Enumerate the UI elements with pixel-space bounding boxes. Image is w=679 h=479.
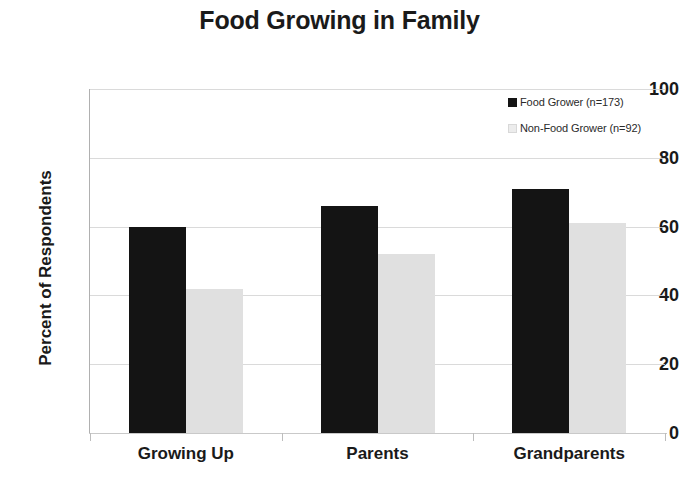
bar xyxy=(512,189,569,433)
x-axis-tick-label: Parents xyxy=(346,444,408,464)
legend-item: Food Grower (n=173) xyxy=(508,96,641,108)
legend-swatch-icon xyxy=(508,124,517,133)
chart-legend: Food Grower (n=173)Non-Food Grower (n=92… xyxy=(508,96,641,148)
x-axis-tick xyxy=(665,433,666,441)
x-axis-tick xyxy=(282,433,283,441)
bar xyxy=(321,206,378,433)
x-axis-tick-label: Growing Up xyxy=(138,444,234,464)
bar xyxy=(569,223,626,433)
x-axis-tick xyxy=(90,433,91,441)
x-axis-line xyxy=(89,433,667,434)
legend-label: Non-Food Grower (n=92) xyxy=(520,122,641,134)
legend-item: Non-Food Grower (n=92) xyxy=(508,122,641,134)
gridline xyxy=(90,89,665,90)
bar xyxy=(186,289,243,433)
bar xyxy=(129,227,186,433)
bar xyxy=(378,254,435,433)
legend-swatch-icon xyxy=(508,98,517,107)
y-axis-title: Percent of Respondents xyxy=(36,118,56,418)
x-axis-tick xyxy=(473,433,474,441)
legend-label: Food Grower (n=173) xyxy=(520,96,624,108)
bar-chart: Food Growing in Family Percent of Respon… xyxy=(0,0,679,479)
x-axis-tick-label: Grandparents xyxy=(513,444,624,464)
gridline xyxy=(90,158,665,159)
chart-title: Food Growing in Family xyxy=(0,6,679,35)
